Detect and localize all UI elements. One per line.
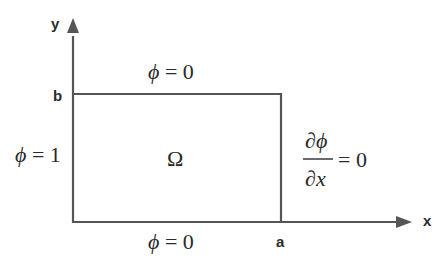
y-axis-arrowhead-icon (67, 18, 79, 33)
x-axis-arrowhead-icon (396, 216, 412, 228)
bc-left: ϕ = 1 (15, 142, 61, 167)
y-axis-label: y (51, 15, 60, 32)
domain-omega-label: Ω (167, 146, 183, 171)
tick-a-label: a (276, 233, 285, 250)
bc-right-denominator: ∂x (305, 166, 326, 191)
phi-symbol: ϕ (148, 229, 159, 254)
tick-b-label: b (53, 87, 62, 104)
phi-symbol: ϕ (148, 59, 159, 84)
bc-top: ϕ = 0 (148, 59, 194, 84)
diagram-svg: y x b a ϕ = 0 ϕ = 1 Ω ϕ = 0 ∂ϕ ∂x = 0 (0, 0, 448, 265)
bc-right-numerator: ∂ϕ (305, 128, 327, 153)
bc-right: ∂ϕ ∂x = 0 (303, 128, 367, 191)
diagram-canvas: y x b a ϕ = 0 ϕ = 1 Ω ϕ = 0 ∂ϕ ∂x = 0 (0, 0, 448, 265)
phi-symbol: ϕ (15, 142, 26, 167)
bc-bottom: ϕ = 0 (148, 229, 194, 254)
x-axis-label: x (423, 212, 432, 229)
bc-right-equals: = 0 (338, 147, 367, 172)
